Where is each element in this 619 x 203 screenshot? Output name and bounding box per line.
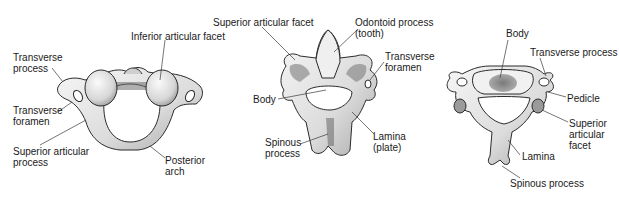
label-cervical-lamina: Lamina	[522, 151, 555, 162]
typical-cervical-vertebra	[447, 66, 553, 165]
label-axis-lamina: Lamina (plate)	[373, 131, 406, 153]
label-cervical-pedicle: Pedicle	[567, 93, 600, 104]
atlas-vertebra	[57, 68, 202, 151]
label-atlas-inferior-articular-facet: Inferior articular facet	[131, 31, 225, 42]
label-atlas-posterior-arch: Posterior arch	[165, 155, 205, 177]
label-axis-transverse-foramen: Transverse foramen	[385, 51, 435, 73]
label-atlas-superior-articular-process: Superior articular process	[13, 146, 89, 168]
label-cervical-transverse-process: Transverse process	[530, 47, 617, 58]
label-cervical-superior-articular-facet: Superior articular facet	[569, 118, 607, 151]
label-axis-superior-articular-facet: Superior articular facet	[213, 17, 314, 28]
label-cervical-body: Body	[506, 28, 529, 39]
label-cervical-spinous-process: Spinous process	[510, 178, 584, 189]
label-axis-odontoid-process: Odontoid process (tooth)	[355, 17, 433, 39]
label-atlas-transverse-process: Transverse process	[13, 52, 63, 74]
label-atlas-transverse-foramen: Transverse foramen	[13, 105, 63, 127]
label-axis-body: Body	[253, 94, 276, 105]
label-axis-spinous-process: Spinous process	[265, 137, 301, 159]
vertebrae-figure: Transverse process Inferior articular fa…	[0, 0, 619, 203]
